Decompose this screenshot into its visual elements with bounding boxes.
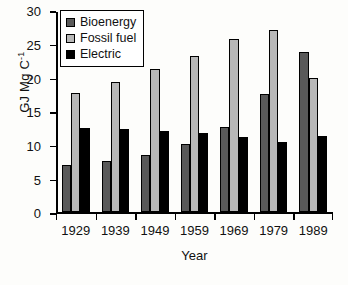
y-axis-tick: 20 [50,79,56,80]
bar [62,165,71,212]
x-axis-tick-label: 1969 [220,223,249,238]
legend-item-label: Electric [80,48,121,61]
y-axis-tick-label: 30 [27,4,41,19]
legend-item-label: Fossil fuel [80,32,136,45]
x-axis-title: Year [56,248,333,263]
bar [71,93,80,213]
y-axis-tick: 5 [50,180,56,181]
legend-item: Electric [66,46,136,62]
bar [299,52,308,212]
x-axis-tick [332,214,333,220]
bar [239,137,248,212]
y-axis-tick: 10 [50,146,56,147]
y-axis-tick: 25 [50,45,56,46]
legend-swatch-icon [66,18,75,27]
x-axis-tick-label: 1979 [259,223,288,238]
bar [111,82,120,213]
x-axis-line [56,212,333,214]
x-axis-tick-label: 1989 [299,223,328,238]
x-axis-tick-label: 1959 [180,223,209,238]
bar [229,39,238,212]
y-axis-tick: 15 [50,112,56,113]
y-axis-title-exponent: -1 [16,52,26,60]
bar [120,129,129,212]
bar [199,133,208,212]
bar [80,128,89,213]
y-axis-tick-label: 20 [27,71,41,86]
bar [190,56,199,213]
y-axis-tick-label: 25 [27,37,41,52]
y-axis-tick-label: 5 [34,172,41,187]
legend-swatch-icon [66,50,75,59]
legend-item-label: Bioenergy [80,16,136,29]
x-axis-tick [135,214,136,220]
bar [220,127,229,213]
x-axis-tick [175,214,176,220]
bar [160,131,169,212]
x-axis-tick-label: 1949 [140,223,169,238]
bar [150,69,159,212]
bar [181,144,190,213]
chart-legend: BioenergyFossil fuelElectric [60,10,144,67]
y-axis-line [56,12,58,214]
x-axis-tick-label: 1929 [61,223,90,238]
y-axis-tick-label: 15 [27,105,41,120]
bar [269,30,278,212]
bar [278,142,287,212]
y-axis-tick: 30 [50,11,56,12]
bar-chart: GJ Mg C-1 051015202530 19291939194919591… [0,0,348,285]
y-axis-tick-label: 10 [27,138,41,153]
x-axis-tick [56,214,57,220]
x-axis-tick-label: 1939 [101,223,130,238]
bar [141,155,150,212]
x-axis-tick [214,214,215,220]
legend-item: Bioenergy [66,14,136,30]
legend-swatch-icon [66,34,75,43]
bar [260,94,269,213]
legend-item: Fossil fuel [66,30,136,46]
y-axis-tick-label: 0 [34,206,41,221]
bar [318,136,327,212]
bar [309,78,318,212]
x-axis-tick [254,214,255,220]
x-axis-tick [293,214,294,220]
bar [102,161,111,212]
x-axis-tick [96,214,97,220]
